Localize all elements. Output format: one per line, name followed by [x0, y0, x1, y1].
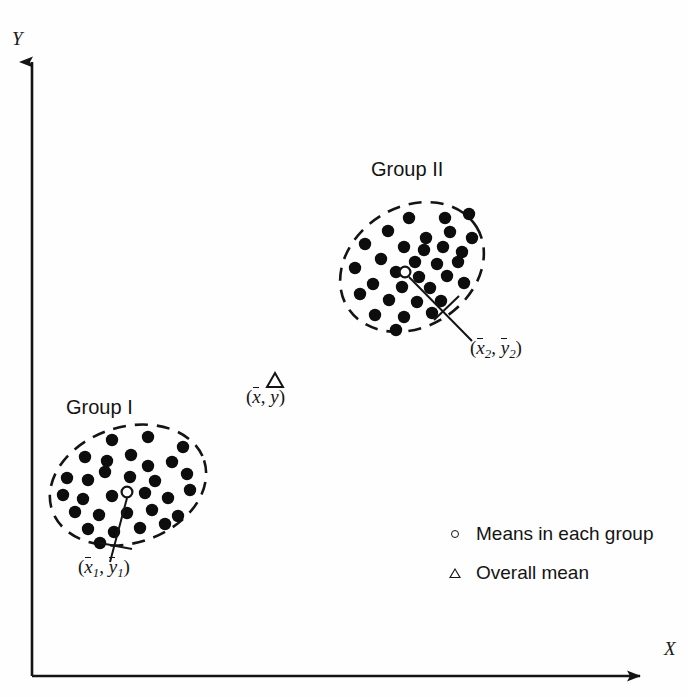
group-2-mean-label: (x2, y2) — [470, 337, 522, 362]
group-2-mean-x: x — [476, 337, 484, 359]
open-circle-icon — [448, 530, 462, 538]
group-2-title: Group II — [371, 158, 443, 181]
overbar — [85, 557, 91, 559]
group-1-mean-marker — [122, 487, 133, 498]
group-1-cluster — [34, 405, 222, 565]
overall-mean-label: (x, y) — [246, 386, 285, 408]
overall-mean-triangle-marker — [267, 373, 283, 387]
group-1-mean-y-subscript: 1 — [117, 565, 123, 580]
overbar — [253, 387, 259, 389]
group-1-title: Group I — [66, 396, 133, 419]
overall-mean-x: x — [252, 386, 260, 408]
group-2-data-points — [349, 208, 478, 336]
group-2-cluster — [316, 176, 508, 358]
overbar — [271, 387, 277, 389]
x-axis-label: X — [664, 638, 676, 660]
open-triangle-icon — [448, 568, 462, 578]
overbar — [477, 338, 483, 340]
scatter-plot-figure: Y X Group I Group II (x1, y1) (x2, y2) (… — [0, 0, 688, 697]
group-1-mean-label: (x1, y1) — [78, 556, 130, 581]
legend-label-means: Means in each group — [476, 523, 653, 545]
legend-entry-overall-mean: Overall mean — [448, 562, 653, 584]
group-1-mean-y: y — [109, 556, 117, 578]
plot-canvas — [0, 0, 688, 697]
group-2-mean-y-subscript: 2 — [509, 346, 515, 361]
group-1-mean-x: x — [84, 556, 92, 578]
group-2-mean-x-subscript: 2 — [485, 346, 491, 361]
legend-label-overall-mean: Overall mean — [476, 562, 589, 584]
y-axis-label: Y — [12, 28, 23, 50]
overall-mean-y: y — [270, 386, 278, 408]
legend-entry-means: Means in each group — [448, 523, 653, 545]
legend: Means in each group Overall mean — [448, 523, 653, 584]
group-2-mean-marker — [400, 267, 411, 278]
group-2-mean-y: y — [501, 337, 509, 359]
group-1-boundary-ellipse — [34, 405, 222, 565]
overbar — [109, 557, 115, 559]
overbar — [501, 338, 507, 340]
group-1-mean-x-subscript: 1 — [93, 565, 99, 580]
